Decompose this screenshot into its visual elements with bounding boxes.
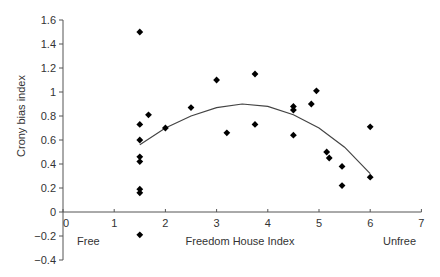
data-point-diamond <box>188 104 195 111</box>
y-tick-label: 1.6 <box>41 14 56 26</box>
data-point-diamond <box>136 137 143 144</box>
y-tick-label: 0.8 <box>41 110 56 122</box>
x-tick-label: 3 <box>214 217 220 229</box>
data-point-diamond <box>323 149 330 156</box>
x-tick-label: 2 <box>162 217 168 229</box>
x-tick-label: 4 <box>265 217 271 229</box>
data-point-diamond <box>339 182 346 189</box>
data-point-diamond <box>162 125 169 132</box>
annotation-free: Free <box>77 235 100 247</box>
data-point-diamond <box>136 158 143 165</box>
data-point-diamond <box>136 231 143 238</box>
y-tick-label: 1.4 <box>41 38 56 50</box>
data-point-diamond <box>339 163 346 170</box>
y-tick-label: 0.2 <box>41 182 56 194</box>
y-tick-label: 1 <box>50 86 56 98</box>
scatter-chart: −0.4−0.200.20.40.60.811.21.41.601234567 … <box>0 0 440 277</box>
data-point-diamond <box>326 155 333 162</box>
x-tick-label: 0 <box>63 217 69 229</box>
data-point-diamond <box>290 107 297 114</box>
y-tick-label: 0 <box>50 206 56 218</box>
data-point-diamond <box>223 129 230 136</box>
y-tick-label: 0.4 <box>41 158 56 170</box>
x-tick-label: 1 <box>111 217 117 229</box>
y-tick-label: 0.6 <box>41 134 56 146</box>
data-point-diamond <box>367 174 374 181</box>
x-tick-label: 6 <box>367 217 373 229</box>
data-point-diamond <box>213 77 220 84</box>
data-point-diamond <box>136 29 143 36</box>
y-tick-label: −0.2 <box>34 230 56 242</box>
data-point-diamond <box>308 101 315 108</box>
axes: −0.4−0.200.20.40.60.811.21.41.601234567 <box>34 14 424 266</box>
trendline <box>140 104 370 174</box>
x-tick-label: 5 <box>316 217 322 229</box>
data-point-diamond <box>136 121 143 128</box>
annotation-unfree: Unfree <box>383 235 416 247</box>
y-tick-label: −0.4 <box>34 254 56 266</box>
data-point-diamond <box>252 71 259 78</box>
data-point-diamond <box>290 132 297 139</box>
x-tick-label: 7 <box>418 217 424 229</box>
y-tick-label: 1.2 <box>41 62 56 74</box>
data-point-diamond <box>252 121 259 128</box>
x-axis-label: Freedom House Index <box>186 235 295 247</box>
data-points <box>136 29 373 239</box>
data-point-diamond <box>313 87 320 94</box>
data-point-diamond <box>145 111 152 118</box>
data-point-diamond <box>136 189 143 196</box>
trend-curve <box>140 104 370 174</box>
y-axis-label: Crony bias index <box>15 75 27 157</box>
data-point-diamond <box>367 123 374 130</box>
